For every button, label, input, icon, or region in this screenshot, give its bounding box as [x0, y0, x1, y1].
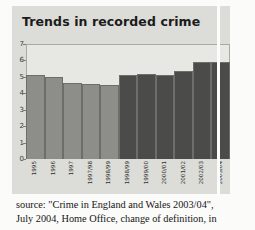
bar	[193, 62, 212, 159]
bar	[26, 75, 45, 159]
x-axis-cell: 1997	[63, 160, 82, 194]
bar	[63, 83, 82, 159]
x-axis-cell: 1997/98	[82, 160, 101, 194]
bar	[45, 77, 64, 159]
caption-line-1: source: "Crime in England and Wales 2003…	[16, 198, 252, 212]
x-tick-label: 1998/99	[107, 161, 113, 184]
bar	[174, 71, 193, 159]
x-axis-cell: 1996	[45, 160, 64, 194]
x-tick-label: 1999/00	[144, 161, 150, 184]
source-caption: source: "Crime in England and Wales 2003…	[16, 198, 252, 225]
recorded-crime-figure: Trends in recorded crime 01234567 199519…	[0, 0, 255, 230]
caption-line-2: July 2004, Home Office, change of defini…	[16, 212, 252, 226]
plot-area	[26, 44, 230, 159]
y-axis: 01234567	[14, 44, 26, 159]
chart-title: Trends in recorded crime	[22, 14, 200, 29]
bar	[211, 62, 230, 159]
bar	[119, 75, 138, 159]
x-tick-label: 2000/01	[162, 161, 168, 184]
bar-series-container	[26, 44, 230, 159]
x-axis-cell: 2003/04	[211, 160, 230, 194]
x-axis-cell: 1998/99	[100, 160, 119, 194]
x-axis-cell: 1995	[26, 160, 45, 194]
x-tick-label: 1998/99	[125, 161, 131, 184]
x-tick-label: 2002/03	[199, 161, 205, 184]
x-axis-cell: 1999/00	[137, 160, 156, 194]
x-tick-label: 1997/98	[88, 161, 94, 184]
x-axis-cell: 2002/03	[193, 160, 212, 194]
x-axis-cell: 2001/02	[174, 160, 193, 194]
x-axis-cell: 1998/99	[119, 160, 138, 194]
x-axis-cell: 2000/01	[156, 160, 175, 194]
x-tick-label: 1997	[70, 161, 76, 175]
x-axis: 1995199619971997/981998/991998/991999/00…	[26, 160, 230, 194]
bar	[82, 84, 101, 159]
bar	[137, 74, 156, 159]
bar	[156, 75, 175, 159]
x-tick-label: 1996	[51, 161, 57, 175]
x-tick-label: 1995	[32, 161, 38, 175]
x-tick-label: 2001/02	[181, 161, 187, 184]
bar	[100, 85, 119, 159]
page-gutter	[217, 0, 220, 196]
